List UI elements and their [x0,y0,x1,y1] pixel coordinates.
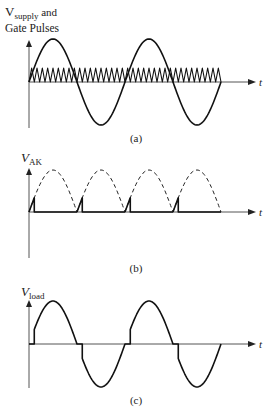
panel-c: Vload t (c) [21,284,263,407]
panel-b-ylabel: VAK [21,150,42,167]
panel-a-xlabel: t [259,76,263,88]
panel-b-caption: (b) [130,262,143,275]
panel-a-ylabel-line2: Gate Pulses [5,22,60,34]
panel-a-y-arrow-icon [26,40,32,47]
panel-b-rectified-envelope [29,170,221,212]
thyristor-waveform-diagram: Vsupply and Gate Pulses t (a) VAK t (b) … [0,0,273,415]
panel-b-vak-trace [29,198,221,212]
panel-b-x-arrow-icon [248,209,256,215]
panel-c-caption: (c) [130,394,143,407]
panel-c-y-arrow-icon [26,300,32,307]
panel-b-xlabel: t [259,206,263,218]
panel-a-x-arrow-icon [248,79,256,85]
panel-b-y-arrow-icon [26,168,32,175]
panel-c-xlabel: t [259,338,263,350]
panel-a-caption: (a) [130,132,143,145]
panel-a-ylabel: Vsupply and [5,4,58,21]
panel-a: Vsupply and Gate Pulses t (a) [5,4,263,145]
panel-c-ylabel: Vload [21,284,45,301]
panel-b: VAK t (b) [21,150,263,275]
panel-a-gate-pulses [29,68,221,82]
panel-c-x-arrow-icon [248,341,256,347]
